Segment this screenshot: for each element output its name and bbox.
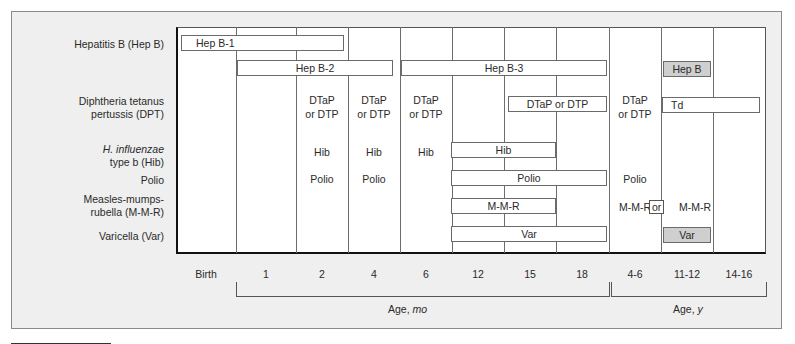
- bar-hepb3: Hep B-3: [401, 60, 607, 76]
- age-tick: 18: [556, 268, 608, 280]
- years-bracket: [611, 282, 767, 297]
- bar-var-12-18mo: Var: [451, 226, 607, 242]
- age-tick: 4: [348, 268, 400, 280]
- age-tick: 15: [504, 268, 556, 280]
- bar-var-catchup: Var: [663, 227, 711, 243]
- months-bracket: [236, 282, 610, 297]
- cell-dtap-6mo: DTaPor DTP: [400, 93, 452, 121]
- bar-polio-12-18mo: Polio: [451, 170, 607, 186]
- cell-dtap-4-6y: DTaPor DTP: [609, 93, 661, 121]
- or-box: or: [649, 200, 664, 214]
- cell-polio-4mo: Polio: [348, 172, 400, 186]
- row-label-polio: Polio: [141, 174, 164, 187]
- row-label-mmr: Measles-mumps-rubella (M-M-R): [83, 193, 164, 219]
- age-tick: 1: [240, 268, 292, 280]
- row-label-var: Varicella (Var): [99, 230, 164, 243]
- bar-hepb-catchup: Hep B: [663, 61, 711, 77]
- grid-line: [661, 27, 662, 253]
- axis-label-years: Age, y: [673, 303, 703, 315]
- age-tick: 11-12: [661, 268, 713, 280]
- age-tick: 14-16: [713, 268, 765, 280]
- axis-label-months: Age, mo: [388, 303, 427, 315]
- grid-line: [713, 27, 714, 253]
- age-tick: 4-6: [609, 268, 661, 280]
- row-label-dpt: Diphtheria tetanuspertussis (DPT): [79, 95, 164, 121]
- bar-mmr-12-15mo: M-M-R: [451, 198, 556, 214]
- age-tick: 6: [400, 268, 452, 280]
- cell-mmr-11-12y: M-M-R: [665, 200, 725, 214]
- cell-polio-4-6y: Polio: [609, 172, 661, 186]
- age-tick: 12: [452, 268, 504, 280]
- cell-polio-2mo: Polio: [296, 172, 348, 186]
- cell-hib-2mo: Hib: [296, 145, 348, 159]
- age-tick: Birth: [180, 268, 232, 280]
- bar-dtap-15-18mo: DTaP or DTP: [508, 96, 607, 112]
- cell-dtap-4mo: DTaPor DTP: [348, 93, 400, 121]
- cell-dtap-2mo: DTaPor DTP: [296, 93, 348, 121]
- cell-hib-6mo: Hib: [400, 145, 452, 159]
- grid-line: [609, 27, 610, 253]
- bar-hepb2: Hep B-2: [237, 60, 393, 76]
- cell-hib-4mo: Hib: [348, 145, 400, 159]
- row-label-hepb: Hepatitis B (Hep B): [74, 38, 164, 51]
- bar-hib-12-15mo: Hib: [451, 142, 556, 158]
- age-tick: 2: [296, 268, 348, 280]
- bar-hepb1: Hep B-1: [181, 35, 344, 51]
- row-label-hib: H. influenzaetype b (Hib): [103, 143, 164, 169]
- bar-td: Td: [662, 97, 760, 113]
